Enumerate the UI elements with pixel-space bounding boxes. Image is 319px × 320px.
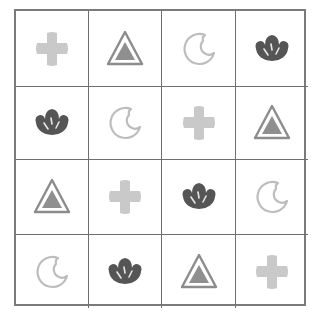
grid-cell-r4-c3[interactable] <box>162 235 236 308</box>
crescent-icon <box>250 175 294 219</box>
grid-cell-r2-c3[interactable] <box>162 87 236 160</box>
crescent-icon <box>103 101 147 145</box>
grid-cell-r3-c2[interactable] <box>89 160 162 235</box>
grid-cell-r2-c2[interactable] <box>89 87 162 160</box>
cross-icon <box>250 250 294 294</box>
puzzle-board <box>14 9 306 306</box>
cross-icon <box>103 175 147 219</box>
grid-cell-r2-c4[interactable] <box>236 87 308 160</box>
flower-icon <box>250 27 294 71</box>
flower-icon <box>103 250 147 294</box>
flower-icon <box>177 175 221 219</box>
grid-cell-r1-c1[interactable] <box>16 11 89 87</box>
crescent-icon <box>30 250 74 294</box>
grid-cell-r4-c2[interactable] <box>89 235 162 308</box>
grid-cell-r2-c1[interactable] <box>16 87 89 160</box>
grid-cell-r4-c1[interactable] <box>16 235 89 308</box>
triangle-icon <box>177 250 221 294</box>
grid-cell-r3-c4[interactable] <box>236 160 308 235</box>
grid-cell-r4-c4[interactable] <box>236 235 308 308</box>
grid-cell-r1-c3[interactable] <box>162 11 236 87</box>
grid-cell-r3-c1[interactable] <box>16 160 89 235</box>
triangle-icon <box>250 101 294 145</box>
cross-icon <box>30 27 74 71</box>
cross-icon <box>177 101 221 145</box>
flower-icon <box>30 101 74 145</box>
grid-cell-r1-c2[interactable] <box>89 11 162 87</box>
crescent-icon <box>177 27 221 71</box>
grid-cell-r1-c4[interactable] <box>236 11 308 87</box>
grid-cell-r3-c3[interactable] <box>162 160 236 235</box>
triangle-icon <box>103 27 147 71</box>
triangle-icon <box>30 175 74 219</box>
